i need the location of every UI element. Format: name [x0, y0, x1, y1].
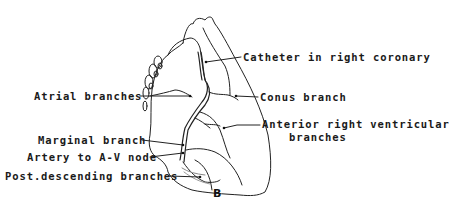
label-catheter: Catheter in right coronary — [243, 51, 431, 63]
heart-diagram — [0, 0, 456, 215]
panel-label: B — [213, 187, 221, 200]
label-atrial-branches: Atrial branches — [34, 90, 142, 102]
label-anterior-rv-line1: Anterior right ventricular — [262, 118, 450, 130]
label-conus-branch: Conus branch — [260, 91, 347, 103]
heart-outline — [149, 17, 270, 196]
label-marginal-branch: Marginal branch — [38, 134, 146, 146]
label-post-descending: Post.descending branches — [5, 170, 178, 182]
label-av-node-artery: Artery to A-V node — [27, 151, 157, 163]
label-anterior-rv-line2: branches — [289, 131, 347, 143]
